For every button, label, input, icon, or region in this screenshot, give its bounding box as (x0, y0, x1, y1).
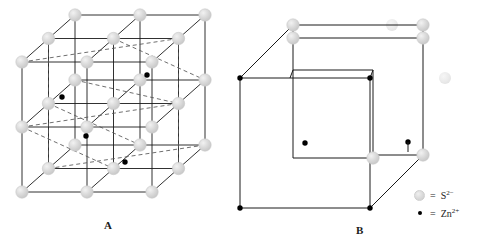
zinc-ion (122, 159, 127, 164)
legend-charge-zinc: 2+ (452, 207, 459, 215)
sulfide-ion (107, 97, 119, 109)
sulfide-ion (42, 97, 54, 109)
sulfide-ion (69, 74, 81, 86)
legend-equals-sign: = (430, 190, 436, 201)
zinc-ion (367, 205, 372, 210)
zinc-ion (367, 75, 372, 80)
zinc-ion (237, 205, 242, 210)
sulfide-ion (146, 56, 158, 68)
sulfide-ion (16, 56, 28, 68)
sulfide-ion (172, 32, 184, 44)
panel-a-lattice (16, 9, 211, 198)
sulfide-ion (107, 32, 119, 44)
sulfide-ion (146, 121, 158, 133)
sulfide-ion (81, 121, 93, 133)
sulfide-ion (69, 9, 81, 21)
sulfide-ion (81, 186, 93, 198)
sulfide-sphere-icon (414, 190, 425, 201)
panel-label-b: B (356, 224, 363, 236)
sulfide-ion (16, 186, 28, 198)
zinc-ion-body-centre (302, 140, 307, 145)
sulfide-ion (146, 186, 158, 198)
sulfide-ion (287, 32, 299, 44)
sulfide-ion (16, 121, 28, 133)
zns-crystal-structure-figure (0, 0, 483, 245)
legend-item-zinc: = Zn2+ (414, 207, 459, 219)
legend-item-sulfide: = S2− (414, 189, 454, 201)
panel-b-unit-cell (237, 19, 451, 211)
zinc-ion (59, 94, 64, 99)
zinc-ion (144, 72, 149, 77)
legend-equals-sign: = (430, 208, 436, 219)
sulfide-ion (134, 9, 146, 21)
legend-label-sulfide: S2− (441, 189, 454, 201)
panel-a-sulfide-ions (16, 9, 211, 198)
sulfide-ion (199, 74, 211, 86)
sulfide-ion (134, 74, 146, 86)
sulfide-ion (287, 19, 299, 31)
sulfide-ion (107, 162, 119, 174)
sulfide-ion (134, 139, 146, 151)
sulfide-ion (417, 149, 429, 161)
sulfide-ion (172, 162, 184, 174)
panel-label-a: A (104, 219, 112, 231)
legend-label-zinc: Zn2+ (441, 207, 460, 219)
panel-b-zinc-ions (237, 75, 410, 210)
zinc-dot-icon (414, 208, 425, 219)
sulfide-ion (42, 162, 54, 174)
sulfide-ion (81, 56, 93, 68)
sulfide-ion (172, 97, 184, 109)
legend-charge-sulfide: 2− (446, 189, 453, 197)
structures-svg (0, 0, 483, 245)
sulfide-ion (199, 139, 211, 151)
sulfide-ion (42, 32, 54, 44)
sulfide-ion (417, 32, 429, 44)
sulfide-ion (199, 9, 211, 21)
legend-symbol-zinc: Zn (441, 208, 452, 219)
sulfide-ion (417, 19, 429, 31)
panel-b-outline (240, 25, 423, 208)
zinc-ion (83, 133, 88, 138)
sulfide-ion (367, 152, 379, 164)
zinc-ion (237, 75, 242, 80)
sulfide-ion-face-centre (439, 72, 451, 84)
sulfide-ion (69, 139, 81, 151)
